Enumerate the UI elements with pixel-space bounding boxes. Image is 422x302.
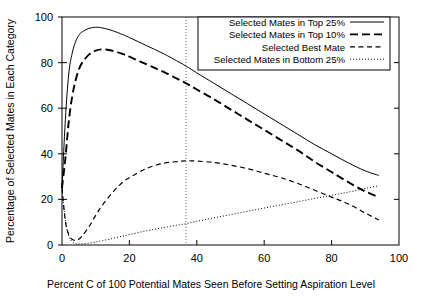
chart-canvas: 020406080100 020406080100 Selected Mates… — [0, 0, 422, 302]
legend-label-2: Selected Best Mate — [262, 42, 345, 53]
x-tick-label-40: 40 — [191, 252, 203, 264]
y-tick-label-100: 100 — [35, 11, 53, 23]
x-tick-label-0: 0 — [59, 252, 65, 264]
y-tick-label-40: 40 — [41, 148, 53, 160]
y-tick-label-60: 60 — [41, 102, 53, 114]
legend-label-1: Selected Mates in Top 10% — [229, 29, 346, 40]
x-axis-title: Percent C of 100 Potential Mates Seen Be… — [47, 278, 375, 290]
x-tick-label-60: 60 — [258, 252, 270, 264]
x-tick-label-80: 80 — [325, 252, 337, 264]
y-tick-label-80: 80 — [41, 57, 53, 69]
x-tick-label-20: 20 — [123, 252, 135, 264]
y-tick-label-0: 0 — [47, 239, 53, 251]
chart-legend: Selected Mates in Top 25%Selected Mates … — [198, 17, 390, 70]
legend-label-0: Selected Mates in Top 25% — [229, 17, 346, 28]
x-tick-label-100: 100 — [390, 252, 408, 264]
y-tick-label-20: 20 — [41, 193, 53, 205]
chart-figure: 020406080100 020406080100 Selected Mates… — [0, 0, 422, 302]
legend-label-3: Selected Mates in Bottom 25% — [214, 54, 346, 65]
y-axis-title: Percentage of Selected Mates in Each Cat… — [4, 18, 16, 243]
